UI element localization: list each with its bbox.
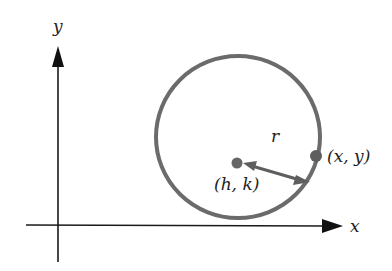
x-axis-arrow-icon bbox=[322, 219, 343, 233]
radius-arrow-start-icon bbox=[243, 161, 257, 171]
x-axis-label: x bbox=[350, 218, 360, 235]
y-axis-label: y bbox=[53, 18, 63, 35]
circle-point bbox=[310, 150, 322, 162]
y-axis bbox=[52, 46, 64, 262]
center-point bbox=[232, 158, 243, 169]
diagram-graphics bbox=[0, 0, 392, 271]
center-label: (h, k) bbox=[214, 176, 259, 193]
y-axis-arrow-icon bbox=[52, 46, 64, 67]
radius-label: r bbox=[271, 128, 279, 145]
x-axis bbox=[26, 219, 343, 233]
circle-diagram: y x r (h, k) (x, y) bbox=[0, 0, 392, 271]
point-label: (x, y) bbox=[327, 148, 370, 165]
